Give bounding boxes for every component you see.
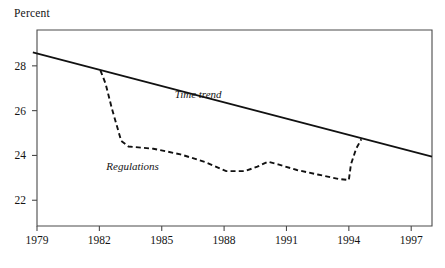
axes xyxy=(37,30,432,226)
x-tick-label: 1982 xyxy=(88,234,111,246)
series-annotations: Time trendRegulations xyxy=(105,88,222,172)
y-tick-label: 28 xyxy=(15,60,27,72)
x-tick-label: 1988 xyxy=(213,234,236,246)
chart-plot-area: 1979198219851988199119941997 22242628 Ti… xyxy=(0,0,445,268)
x-tick-label: 1985 xyxy=(150,234,173,246)
x-axis-ticks: 1979198219851988199119941997 xyxy=(26,226,423,246)
y-tick-label: 22 xyxy=(15,194,27,206)
y-axis-ticks: 22242628 xyxy=(15,60,38,206)
x-tick-label: 1979 xyxy=(26,234,49,246)
x-tick-label: 1997 xyxy=(400,234,423,246)
x-tick-label: 1991 xyxy=(275,234,298,246)
annotation-label: Time trend xyxy=(175,88,222,100)
series-line-time-trend xyxy=(33,52,432,156)
y-tick-label: 26 xyxy=(15,105,27,117)
x-tick-label: 1994 xyxy=(337,234,360,246)
y-tick-label: 24 xyxy=(15,149,27,161)
data-series xyxy=(33,52,432,180)
annotation-label: Regulations xyxy=(105,160,159,172)
chart-figure: Percent 1979198219851988199119941997 222… xyxy=(0,0,445,268)
